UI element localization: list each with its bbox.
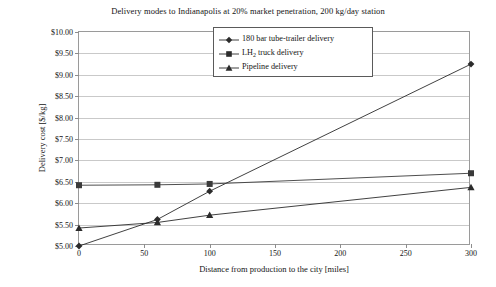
y-tick-label: $5.50 (55, 220, 73, 229)
series-3 (75, 184, 474, 231)
legend-marker-square (218, 46, 240, 58)
series-line (79, 173, 471, 185)
y-axis-title-text: Delivery cost [$/kg] (37, 104, 47, 172)
y-tick-label: $9.50 (55, 49, 73, 58)
series-2 (76, 170, 474, 188)
y-tick-label: $5.00 (55, 242, 73, 251)
legend-label: Pipeline delivery (240, 62, 298, 71)
y-tick-label: $7.50 (55, 135, 73, 144)
x-tick-label: 0 (77, 249, 81, 258)
data-point-diamond (206, 188, 213, 195)
legend-label: 180 bar tube-trailer delivery (240, 34, 334, 43)
data-point-square (76, 182, 82, 188)
y-tick-label: $10.00 (51, 28, 73, 37)
x-axis-title: Distance from production to the city [mi… (78, 264, 470, 274)
y-tick-label: $8.00 (55, 113, 73, 122)
x-tick-label: 250 (400, 249, 412, 258)
y-tick-label: $6.50 (55, 177, 73, 186)
data-point-diamond (468, 61, 475, 68)
chart-title: Delivery modes to Indianapolis at 20% ma… (0, 6, 496, 16)
data-point-square (154, 182, 160, 188)
x-tick-label: 200 (334, 249, 346, 258)
legend-item[interactable]: LH2 truck delivery (218, 45, 367, 59)
x-tick-label: 50 (140, 249, 148, 258)
data-point-square (207, 181, 213, 187)
data-point-diamond (226, 37, 232, 43)
legend-item[interactable]: 180 bar tube-trailer delivery (218, 31, 367, 45)
y-tick-label: $7.00 (55, 156, 73, 165)
chart-figure: Delivery modes to Indianapolis at 20% ma… (0, 0, 496, 287)
chart-legend: 180 bar tube-trailer deliveryLH2 truck d… (213, 27, 373, 77)
x-tick-label: 150 (269, 249, 281, 258)
series-line (79, 64, 471, 246)
legend-marker-diamond (218, 32, 240, 44)
series-line (79, 187, 471, 228)
y-tick-label: $9.00 (55, 70, 73, 79)
legend-item[interactable]: Pipeline delivery (218, 59, 367, 73)
legend-label: LH2 truck delivery (240, 48, 304, 57)
y-tick-label: $8.50 (55, 92, 73, 101)
data-point-square (468, 170, 474, 176)
data-point-triangle (467, 184, 474, 190)
legend-marker-triangle (218, 60, 240, 72)
x-tick-label: 100 (204, 249, 216, 258)
data-point-square (226, 51, 232, 57)
series-1 (76, 61, 475, 250)
x-tick-label: 300 (465, 249, 477, 258)
y-tick-label: $6.00 (55, 199, 73, 208)
x-tick (471, 244, 472, 248)
